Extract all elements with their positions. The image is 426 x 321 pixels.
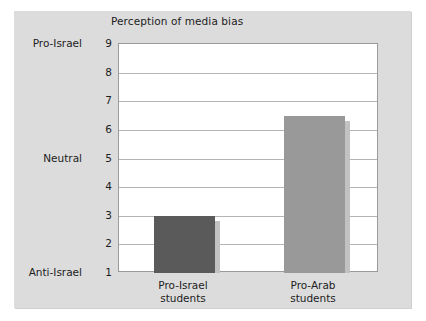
bar-pro-arab-students[interactable]	[284, 116, 345, 273]
gridline-7	[119, 101, 377, 102]
chart-figure: Perception of media bias Pro-IsraelNeutr…	[0, 0, 426, 321]
y-tick-label-7: 7	[86, 95, 112, 106]
plot-area	[118, 43, 378, 272]
y-tick-label-5: 5	[86, 153, 112, 164]
y-tick-label-3: 3	[86, 210, 112, 221]
gridline-8	[119, 73, 377, 74]
y-tick-label-8: 8	[86, 67, 112, 78]
x-axis-label-pro-israel-students: Pro-Israelstudents	[123, 279, 243, 304]
y-anchor-label-neutral: Neutral	[0, 153, 82, 164]
y-tick-label-2: 2	[86, 238, 112, 249]
y-anchor-label-anti-israel: Anti-Israel	[0, 267, 82, 278]
x-label-line: students	[253, 292, 373, 305]
y-tick-label-9: 9	[86, 38, 112, 49]
x-axis-label-pro-arab-students: Pro-Arabstudents	[253, 279, 373, 304]
y-tick-label-6: 6	[86, 124, 112, 135]
x-label-line: Pro-Israel	[123, 279, 243, 292]
y-anchor-label-pro-israel: Pro-Israel	[0, 38, 82, 49]
y-tick-label-1: 1	[86, 267, 112, 278]
x-label-line: Pro-Arab	[253, 279, 373, 292]
bar-pro-israel-students[interactable]	[154, 216, 215, 273]
x-label-line: students	[123, 292, 243, 305]
chart-title: Perception of media bias	[111, 15, 243, 27]
y-tick-label-4: 4	[86, 181, 112, 192]
